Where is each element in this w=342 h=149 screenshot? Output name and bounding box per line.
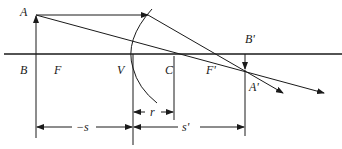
label-a: A [19, 5, 28, 19]
label-b: B [20, 63, 28, 77]
label-f: F [53, 63, 62, 77]
label-c: C [165, 63, 174, 77]
label-b-prime: B' [245, 32, 255, 46]
label-v: V [117, 63, 126, 77]
label-f-prime: F' [205, 63, 216, 77]
label-minus-s: −s [76, 120, 89, 134]
label-r: r [150, 105, 155, 119]
refraction-diagram: A B F V C F' B' A' r −s s' [0, 0, 342, 149]
label-s-prime: s' [182, 120, 190, 134]
label-a-prime: A' [248, 80, 259, 94]
spherical-surface [131, 9, 157, 103]
